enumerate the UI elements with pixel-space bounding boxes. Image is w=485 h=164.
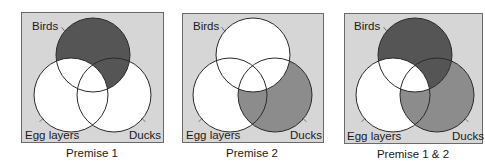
panel-premise-1-and-2: BirdsEgg layersDucksPremise 1 & 2 [344,13,484,160]
panel-premise-2: BirdsEgg layersDucksPremise 2 [182,13,324,159]
panel-caption: Premise 1 [66,147,118,159]
panel-premise-1: BirdsEgg layersDucksPremise 1 [21,12,164,159]
ducks-label: Ducks [452,130,484,142]
egg-layers-label: Egg layers [25,129,80,141]
shaded-region-ducks-minus-birds [182,13,323,142]
egg-layers-label: Egg layers [186,129,241,141]
panel-caption: Premise 1 & 2 [377,148,449,160]
birds-label: Birds [354,20,380,32]
ducks-label: Ducks [129,129,161,141]
birds-label: Birds [193,20,219,32]
birds-label: Birds [32,20,58,32]
egg-layers-label: Egg layers [347,130,402,142]
panel-caption: Premise 2 [226,147,278,159]
venn-diagram-figure: BirdsEgg layersDucksPremise 1BirdsEgg la… [0,0,485,164]
ducks-label: Ducks [290,129,322,141]
